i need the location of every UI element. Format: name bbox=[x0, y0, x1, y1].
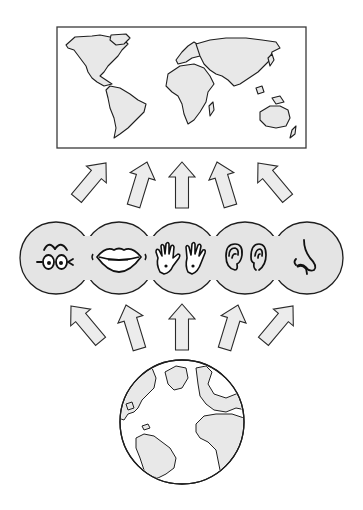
world-map-icon bbox=[57, 27, 306, 148]
arrow-up-icon bbox=[114, 301, 152, 353]
arrow-up-icon bbox=[212, 301, 250, 353]
arrow-up-left-icon bbox=[248, 155, 297, 207]
arrow-up-right-icon bbox=[66, 155, 115, 207]
lower-arrows bbox=[61, 298, 303, 353]
arrow-up-left-icon bbox=[61, 298, 110, 350]
sense-circles bbox=[20, 222, 343, 294]
arrow-up-right-icon bbox=[253, 298, 302, 350]
diagram-canvas bbox=[0, 0, 363, 510]
arrow-up-icon bbox=[121, 158, 159, 210]
arrow-up-icon bbox=[205, 158, 243, 210]
arrow-up-icon bbox=[169, 304, 195, 350]
upper-arrows bbox=[66, 155, 297, 210]
arrow-up-icon bbox=[169, 162, 195, 208]
senses-diagram: Perception of the world through the five… bbox=[0, 0, 363, 510]
globe-icon bbox=[118, 360, 246, 484]
